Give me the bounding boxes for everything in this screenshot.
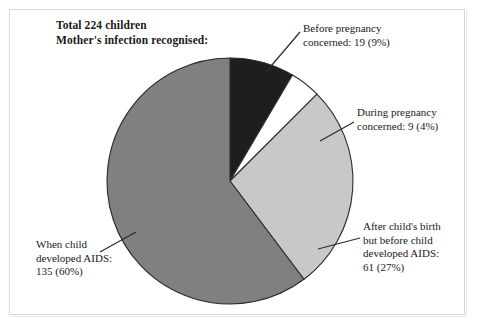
callout-after-childs-birth-line-3: developed AIDS: [363, 247, 441, 261]
callout-when-child-line-3: 135 (60%) [36, 265, 112, 279]
callout-after-childs-birth-line-1: After child's birth [363, 220, 441, 234]
callout-during-pregnancy-line-1: During pregnancy [357, 106, 438, 120]
leader-line-before-pregnancy [266, 32, 300, 72]
callout-before-pregnancy-line-2: concerned: 19 (9%) [303, 36, 390, 50]
callout-after-childs-birth-line-2: but before child [363, 234, 441, 248]
callout-when-child-line-2: developed AIDS: [36, 252, 112, 266]
callout-before-pregnancy: Before pregnancy concerned: 19 (9%) [303, 22, 390, 49]
callout-before-pregnancy-line-1: Before pregnancy [303, 22, 390, 36]
callout-during-pregnancy-line-2: concerned: 9 (4%) [357, 120, 438, 134]
callout-after-childs-birth: After child's birth but before child dev… [363, 220, 441, 274]
callout-after-childs-birth-line-4: 61 (27%) [363, 261, 441, 275]
callout-when-child-line-1: When child [36, 238, 112, 252]
pie-slices-group [107, 58, 353, 304]
callout-during-pregnancy: During pregnancy concerned: 9 (4%) [357, 106, 438, 133]
callout-when-child-developed-aids: When child developed AIDS: 135 (60%) [36, 238, 112, 279]
pie-chart-figure: Total 224 children Mother's infection re… [0, 0, 477, 333]
pie-chart-graphic [0, 0, 477, 333]
